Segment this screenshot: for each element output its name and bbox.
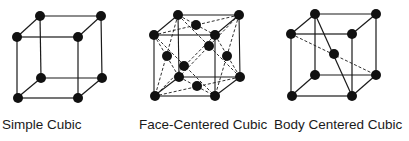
fcc-label: Face-Centered Cubic xyxy=(139,117,267,132)
simple-cubic-lattice xyxy=(17,16,102,98)
simple-cubic-atoms xyxy=(12,11,107,103)
bcc-label: Body Centered Cubic xyxy=(274,117,402,132)
simple-cubic-label: Simple Cubic xyxy=(2,117,82,132)
